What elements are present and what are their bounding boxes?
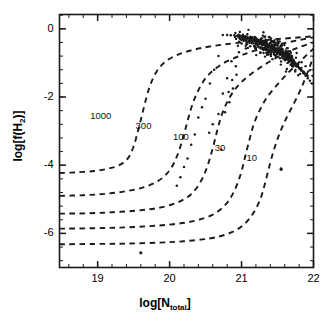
scatter-point (228, 101, 231, 104)
scatter-point (244, 35, 246, 37)
y-axis-label-subscript: 2 (18, 118, 27, 122)
scatter-point (286, 68, 289, 71)
scatter-point (287, 53, 289, 55)
scatter-outlier-point (139, 251, 142, 254)
y-tick-label: -4 (28, 158, 54, 170)
scatter-point (258, 39, 260, 41)
scatter-point (300, 61, 302, 63)
scatter-point (264, 55, 266, 57)
scatter-point (289, 64, 291, 66)
scatter-point (254, 45, 256, 47)
x-tick-label: 19 (83, 272, 113, 284)
scatter-point (259, 42, 261, 44)
y-tick-label: 0 (28, 22, 54, 34)
scatter-point (270, 40, 272, 42)
scatter-point (176, 184, 179, 187)
scatter-point (194, 133, 197, 136)
x-axis-label-close: ] (187, 296, 191, 310)
scatter-point (262, 34, 264, 36)
scatter-point (237, 45, 240, 48)
scatter-point (227, 91, 230, 94)
scatter-point (234, 32, 236, 34)
scatter-point (280, 52, 282, 54)
scatter-point (241, 34, 243, 36)
scatter-point (208, 132, 211, 135)
scatter-point (284, 59, 286, 61)
scatter-point (272, 45, 274, 47)
scatter-point (265, 39, 267, 41)
scatter-point (231, 79, 234, 82)
scatter-point (201, 106, 204, 109)
scatter-point (186, 157, 189, 160)
scatter-point (311, 82, 314, 85)
x-axis-label-subscript: total (170, 303, 187, 312)
scatter-point (222, 34, 225, 37)
scatter-point (209, 82, 212, 85)
scatter-point (212, 123, 215, 126)
x-tick-label: 21 (227, 272, 257, 284)
scatter-point (259, 46, 261, 48)
scatter-point (273, 53, 275, 55)
scatter-point (271, 58, 273, 60)
scatter-point (260, 38, 262, 40)
scatter-point (242, 38, 244, 40)
scatter-point (302, 71, 304, 73)
curve-label-1000: 1000 (90, 110, 111, 121)
scatter-point (238, 40, 240, 42)
scatter-point (262, 42, 264, 44)
scatter-point (265, 51, 267, 53)
scatter-point (217, 55, 220, 58)
scatter-point (276, 40, 278, 42)
scatter-point (261, 44, 263, 46)
curve-label-300: 300 (136, 120, 152, 131)
scatter-point (277, 43, 279, 45)
y-tick-label: -6 (28, 226, 54, 238)
scatter-point (271, 51, 273, 53)
scatter-point (280, 63, 282, 65)
scatter-point (286, 47, 288, 49)
scatter-point (246, 43, 248, 45)
scatter-point (230, 60, 233, 63)
scatter-point (300, 67, 302, 69)
y-axis-label-main: log[f(H (11, 123, 25, 162)
x-axis-label: log[Ntotal] (0, 296, 330, 312)
scatter-point (309, 79, 312, 82)
scatter-point (222, 92, 225, 95)
scatter-outlier-point (280, 168, 283, 171)
scatter-point (281, 49, 283, 51)
y-tick-label: -2 (28, 90, 54, 102)
scatter-point (248, 42, 251, 45)
scatter-point (259, 51, 261, 53)
scatter-point (235, 74, 238, 77)
scatter-point (281, 56, 283, 58)
scatter-point (257, 45, 259, 47)
y-axis-label-close: )] (11, 110, 25, 118)
scatter-point (304, 65, 306, 67)
scatter-point (217, 113, 220, 116)
scatter-point (292, 59, 294, 61)
scatter-point (283, 44, 285, 46)
scatter-point (264, 35, 266, 37)
scatter-point (249, 45, 252, 48)
scatter-point (197, 116, 200, 119)
scatter-point (235, 38, 237, 40)
scatter-point (264, 41, 266, 43)
scatter-point (230, 34, 233, 37)
scatter-point (272, 40, 274, 42)
scatter-point (306, 77, 309, 80)
scatter-point (262, 52, 264, 54)
scatter-point (265, 48, 267, 50)
scatter-point (204, 97, 207, 100)
scatter-point (295, 56, 297, 58)
scatter-point (285, 70, 287, 72)
scatter-point (246, 33, 248, 35)
scatter-point (224, 111, 227, 114)
scatter-point (256, 41, 258, 43)
scatter-point (295, 52, 297, 54)
scatter-point (286, 51, 288, 53)
scatter-point (226, 77, 229, 80)
scatter-point (290, 55, 292, 57)
scatter-point (287, 58, 289, 60)
scatter-point (254, 36, 256, 38)
scatter-point (235, 65, 238, 68)
